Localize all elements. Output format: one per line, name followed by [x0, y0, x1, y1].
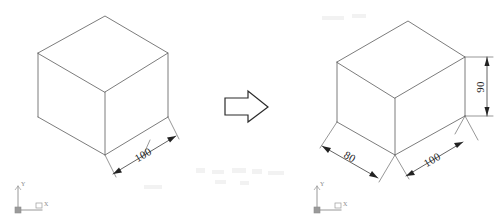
- ucs-icon-left: Y X: [15, 181, 49, 213]
- dim-value-right-width: 100: [421, 150, 442, 169]
- dimension-right-height: 90: [465, 57, 493, 116]
- modified-box-geometry: [337, 21, 465, 155]
- drawing-canvas: 100 Y X: [0, 0, 502, 221]
- dim-value-left-width: 100: [132, 145, 153, 164]
- dim-value-right-height: 90: [474, 81, 486, 93]
- dim-value-right-depth: 80: [342, 148, 358, 164]
- ucs-x-label-right: X: [343, 201, 348, 207]
- ucs-x-label-left: X: [44, 201, 49, 207]
- cad-drawing-surface: 100 Y X: [0, 0, 502, 221]
- ucs-y-label-left: Y: [21, 181, 26, 187]
- transform-arrow: [225, 91, 268, 122]
- ucs-icon-right: Y X: [314, 181, 348, 213]
- ucs-y-label-right: Y: [320, 181, 325, 187]
- original-cube-geometry: [38, 16, 168, 155]
